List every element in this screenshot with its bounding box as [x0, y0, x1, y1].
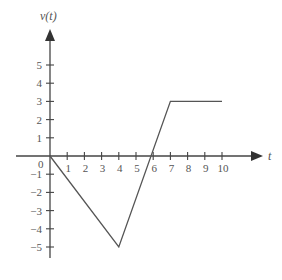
- x-axis-arrow-icon: [251, 151, 263, 161]
- x-tick-label: 6: [151, 162, 157, 174]
- x-tick-label: 8: [186, 162, 192, 174]
- y-tick-label: 3: [37, 95, 43, 107]
- y-tick-label: 5: [37, 59, 43, 71]
- y-tick-label: −3: [30, 205, 42, 217]
- x-tick-label: 1: [65, 162, 71, 174]
- x-tick-label: 10: [218, 162, 230, 174]
- x-axis-label: t: [268, 149, 272, 163]
- y-tick-label: −4: [30, 223, 42, 235]
- y-tick-label: −1: [30, 168, 42, 180]
- x-tick-label: 3: [100, 162, 106, 174]
- y-tick-label: −2: [30, 186, 42, 198]
- y-tick-label: 2: [37, 114, 43, 126]
- series-line: [50, 101, 222, 247]
- y-tick-label: −5: [30, 241, 42, 253]
- origin-label: 0: [38, 158, 44, 170]
- y-axis-label: v(t): [40, 9, 57, 23]
- y-tick-label: 4: [37, 77, 43, 89]
- x-tick-label: 2: [83, 162, 89, 174]
- y-tick-label: 1: [37, 132, 43, 144]
- x-tick-label: 4: [117, 162, 123, 174]
- x-tick-label: 9: [203, 162, 209, 174]
- x-tick-label: 5: [134, 162, 140, 174]
- x-ticks: 12345678910: [65, 152, 229, 174]
- chart: 12345678910 54321−1−2−3−4−5 v(t) t 0: [0, 0, 282, 280]
- y-axis-arrow-icon: [45, 29, 55, 41]
- x-tick-label: 7: [169, 162, 175, 174]
